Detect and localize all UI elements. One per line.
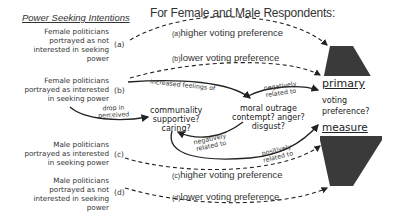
measure-middle-label: voting preference? <box>322 95 370 117</box>
condition-c-tag: (c) <box>114 150 124 159</box>
right-title: For Female and Male Respondents: <box>150 6 335 20</box>
outcome-a: (a)higher voting preference <box>172 27 283 38</box>
condition-a-tag: (a) <box>114 40 124 49</box>
condition-b-tag: (b) <box>114 86 125 95</box>
condition-c: Male politicians portrayed as interested… <box>24 140 109 167</box>
condition-d-tag: (d) <box>114 188 125 197</box>
node-communality: communality supportive? caring? <box>150 106 202 133</box>
outcome-c: (c)higher voting preference <box>172 169 283 180</box>
measure-bottom-label: measure <box>322 121 368 133</box>
condition-a: Female politicians portrayed as not inte… <box>33 27 109 63</box>
left-title: Power Seeking Intentions <box>22 12 130 23</box>
condition-d: Male politicians portrayed as not intere… <box>33 176 109 212</box>
arrow-b <box>130 63 320 78</box>
outcome-b: (b)lower voting preference <box>172 52 279 63</box>
node-moral-outrage: moral outrage contempt? anger? disgust? <box>232 104 305 131</box>
edge-label-drop-in-perceived: drop in perceived <box>98 104 130 119</box>
outcome-d: (d)lower voting preference <box>172 191 279 202</box>
condition-b: Female politicians portrayed as interest… <box>24 76 109 103</box>
measure-top-label: primary <box>322 77 365 90</box>
